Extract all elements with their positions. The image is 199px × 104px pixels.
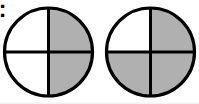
fraction-diagram-canvas: s: [0,0,199,104]
fraction-circle-two [104,2,197,104]
fraction-circle-one [2,2,95,104]
circle-one-svg [2,2,95,102]
circle-two-svg [104,2,197,102]
